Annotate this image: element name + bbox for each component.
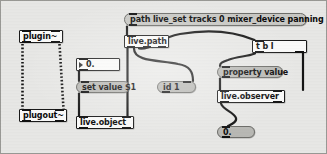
outlet [22, 120, 31, 122]
object-live-observer[interactable]: live.observer [217, 90, 285, 103]
outlet [129, 24, 137, 26]
inlet [81, 81, 89, 83]
outlet [295, 51, 304, 53]
message-set-value-label: set value $1 [82, 83, 136, 92]
cord-live-path-to-id-1 [134, 49, 193, 82]
outlet [81, 91, 89, 93]
outlet [79, 69, 88, 71]
outlet [222, 76, 230, 78]
outlet [158, 46, 166, 48]
inlet [79, 116, 88, 118]
outlet [55, 120, 64, 122]
object-trigger-bang-list[interactable]: t b l [252, 40, 307, 53]
inlet [129, 13, 137, 15]
cord-live-observer-to-output [221, 104, 236, 127]
inlet [79, 58, 88, 60]
inlet [22, 109, 31, 111]
inlet [273, 90, 282, 92]
number-box-label: 0. [86, 60, 94, 69]
outlet [273, 101, 282, 103]
outlet [143, 46, 151, 48]
message-live-path-spec[interactable]: path live_set tracks 0 mixer_device pann… [124, 13, 307, 26]
outlet [127, 46, 135, 48]
outlet [255, 51, 264, 53]
message-id-1[interactable]: id 1 [157, 81, 196, 93]
object-live-observer-label: live.observer [221, 92, 279, 101]
outlet [122, 127, 131, 129]
inlet [222, 66, 230, 68]
object-plugout[interactable]: plugout~ [19, 109, 67, 122]
inlet [220, 90, 229, 92]
outlet [162, 91, 170, 93]
number-box-triangle-icon [79, 62, 83, 68]
max-patcher-canvas[interactable]: plugin~ plugout~ 0. set value $1 live.ob… [0, 0, 327, 154]
inlet [22, 30, 31, 32]
object-plugin-label: plugin~ [23, 32, 57, 41]
cord-t-b-l-to-property-value [220, 54, 255, 67]
inlet [255, 40, 264, 42]
message-property-value[interactable]: property value [217, 66, 283, 78]
object-live-object[interactable]: live.object [76, 116, 134, 129]
inlet [55, 109, 64, 111]
inlet [51, 30, 60, 32]
outlet [22, 41, 31, 43]
object-trigger-bang-list-label: t b l [256, 42, 273, 51]
inlet [122, 116, 131, 118]
outlet [51, 41, 60, 43]
outlet [222, 136, 230, 138]
message-observer-output[interactable]: 0. [217, 126, 255, 138]
object-live-path[interactable]: live.path [124, 35, 169, 48]
object-live-object-label: live.object [80, 118, 126, 127]
inlet [183, 81, 191, 83]
outlet [79, 127, 88, 129]
number-box-value[interactable]: 0. [76, 58, 120, 71]
inlet [222, 126, 230, 128]
object-live-path-label: live.path [128, 37, 167, 46]
cord-plugin-right-to-plugout-right [60, 44, 64, 109]
message-live-path-spec-label: path live_set tracks 0 mixer_device pann… [130, 15, 324, 24]
message-set-value[interactable]: set value $1 [76, 81, 130, 93]
object-plugout-label: plugout~ [23, 111, 64, 120]
outlet [220, 101, 229, 103]
message-property-value-label: property value [223, 68, 288, 77]
object-plugin[interactable]: plugin~ [19, 30, 63, 43]
inlet [127, 35, 136, 37]
